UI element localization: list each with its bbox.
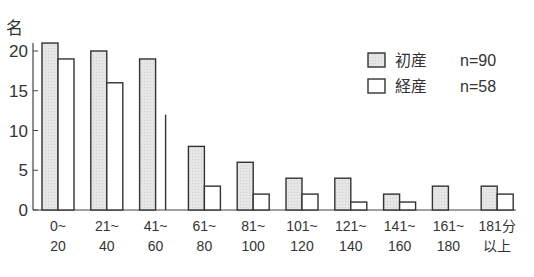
- x-tick-label: 120: [290, 238, 314, 254]
- x-tick-label: 61~: [193, 218, 217, 234]
- x-tick-label: 101~: [286, 218, 318, 234]
- legend-n-primipara: n=90: [460, 52, 496, 69]
- bar-multipara: [107, 83, 123, 210]
- bars: [42, 43, 513, 210]
- legend: 初産 n=90 経産 n=58: [368, 52, 496, 95]
- bar-primipara: [237, 162, 253, 210]
- x-axis-labels: 0~2021~4041~6061~8081~100101~120121~1401…: [50, 218, 516, 254]
- x-tick-label: 181分: [479, 218, 516, 234]
- x-tick-label: 140: [339, 238, 363, 254]
- y-axis-unit-label: 名: [6, 19, 23, 38]
- bar-chart: 名 05101520 0~2021~4041~6061~8081~100101~…: [0, 0, 534, 277]
- y-tick-label: 5: [19, 161, 28, 180]
- legend-swatch-multipara: [368, 79, 385, 93]
- x-tick-label: 141~: [384, 218, 416, 234]
- x-tick-label: 81~: [241, 218, 265, 234]
- bar-primipara: [42, 43, 58, 210]
- bar-multipara: [253, 194, 269, 210]
- x-tick-label: 60: [148, 238, 164, 254]
- y-tick-label: 20: [9, 42, 28, 61]
- bar-primipara: [481, 186, 497, 210]
- bar-multipara: [302, 194, 318, 210]
- bar-multipara: [58, 59, 74, 210]
- bar-primipara: [188, 146, 204, 210]
- legend-label-multipara: 経産: [395, 78, 427, 95]
- x-tick-label: 180: [437, 238, 461, 254]
- bar-multipara: [351, 202, 367, 210]
- x-tick-label: 160: [388, 238, 412, 254]
- y-tick-label: 10: [9, 122, 28, 141]
- bar-primipara: [384, 194, 400, 210]
- legend-n-multipara: n=58: [460, 78, 496, 95]
- bar-multipara: [497, 194, 513, 210]
- bar-primipara: [140, 59, 156, 210]
- x-tick-label: 161~: [433, 218, 465, 234]
- y-tick-label: 15: [9, 82, 28, 101]
- x-tick-label: 40: [99, 238, 115, 254]
- x-tick-label: 41~: [144, 218, 168, 234]
- legend-swatch-primipara: [368, 53, 385, 67]
- x-tick-label: 100: [242, 238, 266, 254]
- bar-primipara: [91, 51, 107, 210]
- x-tick-label: 21~: [95, 218, 119, 234]
- x-tick-label: 80: [197, 238, 213, 254]
- y-tick-label: 0: [19, 201, 28, 220]
- x-tick-label: 121~: [335, 218, 367, 234]
- bar-primipara: [286, 178, 302, 210]
- x-tick-label: 以上: [483, 238, 511, 254]
- bar-multipara: [204, 186, 220, 210]
- bar-primipara: [432, 186, 448, 210]
- x-tick-label: 0~: [50, 218, 66, 234]
- legend-label-primipara: 初産: [395, 52, 427, 69]
- x-tick-label: 20: [50, 238, 66, 254]
- bar-multipara: [400, 202, 416, 210]
- bar-primipara: [335, 178, 351, 210]
